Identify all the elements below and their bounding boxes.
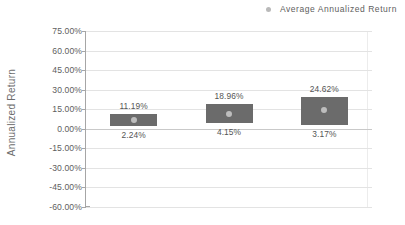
y-axis-tick	[82, 207, 86, 208]
data-label-high: 11.19%	[119, 101, 147, 111]
chart-container: Average Annualized Return Annualized Ret…	[0, 0, 405, 225]
data-label-low: 4.15%	[217, 127, 241, 137]
y-axis-tick	[82, 168, 86, 169]
y-axis-tick-label: 45.00%	[12, 65, 82, 75]
data-label-high: 24.62%	[310, 84, 339, 94]
gridline	[86, 207, 372, 208]
y-axis-tick-label: 75.00%	[12, 26, 82, 36]
y-axis-tick	[82, 148, 86, 149]
legend-label: Average Annualized Return	[280, 4, 397, 14]
data-label-low: 3.17%	[312, 129, 336, 139]
y-axis-tick	[82, 70, 86, 71]
gridline	[86, 148, 372, 149]
y-axis-tick-label: 15.00%	[12, 104, 82, 114]
y-axis-tick	[82, 129, 86, 130]
y-axis-tick-label: -15.00%	[12, 143, 82, 153]
y-axis-tick-labels: 75.00%60.00%45.00%30.00%15.00%0.00%-15.0…	[0, 31, 82, 207]
y-axis-tick-label: 0.00%	[12, 124, 82, 134]
average-return-marker[interactable]	[226, 111, 232, 117]
y-axis-tick	[82, 187, 86, 188]
y-axis-line	[85, 31, 86, 207]
plot-area: 11.19%2.24%18.96%4.15%24.62%3.17%	[86, 31, 372, 207]
gridline	[86, 51, 372, 52]
gridline	[86, 31, 372, 32]
data-label-low: 2.24%	[122, 130, 146, 140]
data-label-high: 18.96%	[214, 91, 243, 101]
y-axis-tick-label: -30.00%	[12, 163, 82, 173]
y-axis-tick	[82, 31, 86, 32]
average-return-marker[interactable]	[131, 117, 137, 123]
chart-legend: Average Annualized Return	[0, 4, 405, 14]
average-return-marker[interactable]	[321, 107, 327, 113]
y-axis-tick-label: 60.00%	[12, 46, 82, 56]
y-axis-tick	[82, 109, 86, 110]
legend-marker-circle-icon	[266, 7, 271, 12]
y-axis-tick	[82, 51, 86, 52]
gridline	[86, 168, 372, 169]
y-axis-tick-label: 30.00%	[12, 85, 82, 95]
gridline	[86, 70, 372, 71]
y-axis-tick	[82, 90, 86, 91]
y-axis-tick-label: -45.00%	[12, 182, 82, 192]
vertical-gridline-right	[367, 31, 368, 207]
y-axis-tick-label: -60.00%	[12, 202, 82, 212]
gridline	[86, 187, 372, 188]
legend-item-average-annualized-return[interactable]: Average Annualized Return	[266, 4, 397, 14]
